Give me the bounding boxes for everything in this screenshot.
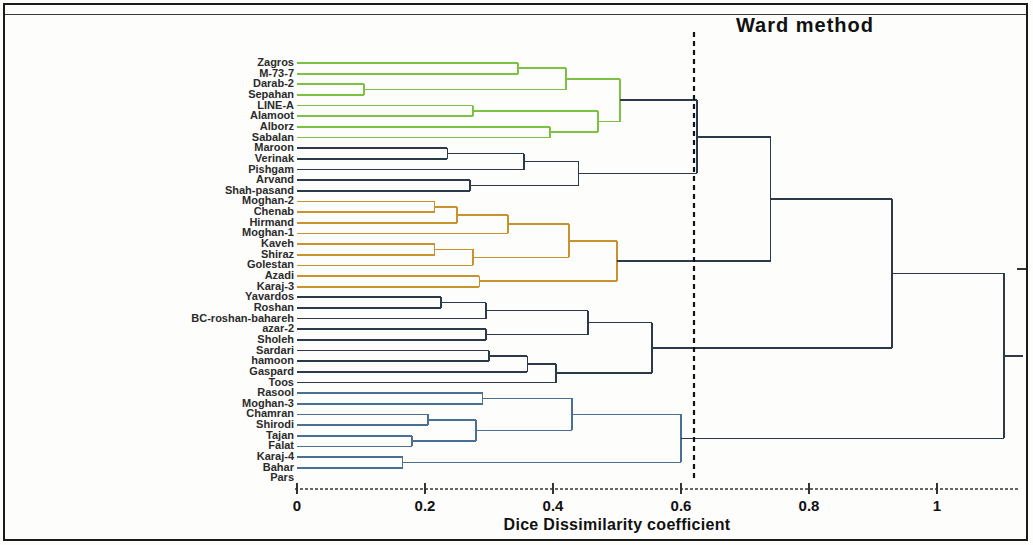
dendrogram-links xyxy=(297,63,1023,468)
leaf-label-bc-roshan-bahareh: BC-roshan-bahareh xyxy=(191,313,294,323)
leaf-label-toos: Toos xyxy=(269,377,294,387)
leaf-label-pishgam: Pishgam xyxy=(248,164,294,174)
leaf-label-verinak: Verinak xyxy=(255,153,294,163)
leaf-label-sholeh: Sholeh xyxy=(257,334,294,344)
leaf-label-sepahan: Sepahan xyxy=(248,89,294,99)
x-axis-title: Dice Dissimilarity coefficient xyxy=(297,516,937,534)
leaf-label-bahar: Bahar xyxy=(263,462,294,472)
leaf-label-tajan: Tajan xyxy=(266,430,294,440)
leaf-label-chenab: Chenab xyxy=(254,206,294,216)
leaf-label-rasool: Rasool xyxy=(257,387,294,397)
leaf-label-karaj-4: Karaj-4 xyxy=(257,451,294,461)
leaf-label-shirodi: Shirodi xyxy=(256,419,294,429)
leaf-label-golestan: Golestan xyxy=(247,259,294,269)
x-tick-0.8: 0.8 xyxy=(779,497,839,514)
leaf-label-m-73-7: M-73-7 xyxy=(259,68,294,78)
leaf-label-moghan-1: Moghan-1 xyxy=(242,227,294,237)
leaf-label-azar-2: azar-2 xyxy=(262,323,294,333)
leaf-label-azadi: Azadi xyxy=(265,270,294,280)
dendrogram-plot xyxy=(0,0,1033,545)
leaf-label-line-a: LINE-A xyxy=(257,100,294,110)
leaf-label-zagros: Zagros xyxy=(257,57,294,67)
leaf-label-pars: Pars xyxy=(270,472,294,482)
leaf-label-shiraz: Shiraz xyxy=(261,249,294,259)
leaf-label-falat: Falat xyxy=(268,440,294,450)
leaf-label-sabalan: Sabalan xyxy=(252,132,294,142)
leaf-label-shah-pasand: Shah-pasand xyxy=(225,185,294,195)
x-tick-0: 0 xyxy=(267,497,327,514)
leaf-label-hamoon: hamoon xyxy=(251,355,294,365)
leaf-label-yavardos: Yavardos xyxy=(245,291,294,301)
leaf-label-maroon: Maroon xyxy=(254,142,294,152)
leaf-label-alamoot: Alamoot xyxy=(250,110,294,120)
x-axis xyxy=(295,483,1020,494)
leaf-label-roshan: Roshan xyxy=(254,302,294,312)
leaf-label-alborz: Alborz xyxy=(260,121,294,131)
leaf-label-darab-2: Darab-2 xyxy=(253,78,294,88)
right-edge-tick xyxy=(1017,268,1026,270)
x-tick-0.4: 0.4 xyxy=(523,497,583,514)
x-tick-0.6: 0.6 xyxy=(651,497,711,514)
leaf-label-moghan-2: Moghan-2 xyxy=(242,195,294,205)
leaf-label-arvand: Arvand xyxy=(256,174,294,184)
x-tick-0.2: 0.2 xyxy=(395,497,455,514)
x-tick-1: 1 xyxy=(907,497,967,514)
dendrogram-figure: Ward method ZagrosM-73-7Darab-2SepahanLI… xyxy=(0,0,1033,545)
leaf-label-sardari: Sardari xyxy=(256,345,294,355)
leaf-label-karaj-3: Karaj-3 xyxy=(257,281,294,291)
leaf-label-gaspard: Gaspard xyxy=(249,366,294,376)
leaf-label-hirmand: Hirmand xyxy=(249,217,294,227)
leaf-label-kaveh: Kaveh xyxy=(261,238,294,248)
leaf-label-moghan-3: Moghan-3 xyxy=(242,398,294,408)
leaf-label-chamran: Chamran xyxy=(246,408,294,418)
